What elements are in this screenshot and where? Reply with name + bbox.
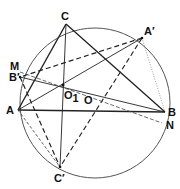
geometry-diagram: C A′ M B′ A O1 O B N C′ bbox=[0, 0, 180, 189]
label-Cprime: C′ bbox=[54, 172, 65, 184]
label-O1-sub: 1 bbox=[73, 92, 79, 104]
point-Cprime bbox=[59, 166, 62, 169]
label-A: A bbox=[6, 104, 14, 116]
label-Aprime: A′ bbox=[144, 25, 155, 37]
label-C: C bbox=[61, 10, 69, 22]
point-O1 bbox=[61, 83, 64, 86]
label-B: B bbox=[168, 106, 176, 118]
line-A-Aprime bbox=[18, 38, 142, 110]
label-Bprime: B′ bbox=[9, 71, 20, 83]
segment-CB bbox=[66, 24, 165, 112]
segment-AC bbox=[18, 24, 66, 110]
segment-AB bbox=[18, 110, 165, 112]
dashed-A-Cprime bbox=[18, 110, 60, 167]
label-O1: O1 bbox=[64, 89, 79, 104]
label-N: N bbox=[166, 119, 174, 131]
point-Aprime bbox=[141, 37, 144, 40]
dashed-Aprime-Bprime bbox=[20, 38, 142, 77]
label-O: O bbox=[84, 94, 93, 106]
